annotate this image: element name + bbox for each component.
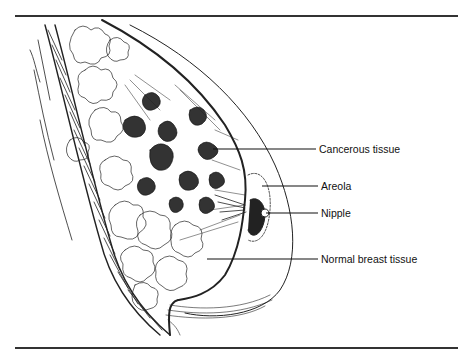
label-nipple: Nipple <box>321 207 351 219</box>
label-cancerous-tissue: Cancerous tissue <box>319 143 400 155</box>
skin-outline <box>130 25 293 316</box>
label-normal-breast-tissue: Normal breast tissue <box>321 253 417 265</box>
gland-outline <box>102 20 246 335</box>
fatty-tissue <box>66 26 203 310</box>
label-areola: Areola <box>321 180 351 192</box>
glandular-tissue <box>123 92 225 213</box>
breast-anatomy-illustration <box>0 0 460 355</box>
areola-nipple <box>248 173 270 241</box>
